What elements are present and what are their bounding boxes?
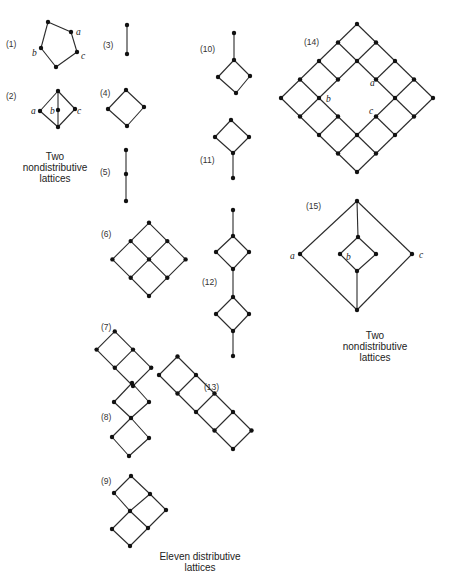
node-label-2-b: b <box>50 106 55 116</box>
lattice-edge <box>216 297 233 314</box>
lattice-edge <box>216 236 233 252</box>
label-lattice-12: (12) <box>202 277 217 287</box>
node-label-1-c: c <box>81 51 86 61</box>
lattice-node <box>128 544 132 548</box>
lattice-edge <box>357 201 358 237</box>
lattice-node <box>149 366 153 370</box>
lattice-node <box>212 428 216 432</box>
lattice-edge <box>357 61 376 80</box>
lattice-node <box>131 347 135 351</box>
caption-eleven-distributive: Eleven distributive lattices <box>145 551 255 573</box>
lattice-edge <box>236 76 250 93</box>
lattice-edge <box>149 241 167 259</box>
lattice-node <box>113 329 117 333</box>
lattice-node <box>231 329 235 333</box>
lattice-node <box>234 91 238 95</box>
lattice-node <box>431 96 435 100</box>
lattice-edge <box>338 24 357 43</box>
lattice-edge <box>376 117 395 136</box>
lattice-edge <box>319 117 338 136</box>
lattice-edge <box>319 61 338 80</box>
lattice-node <box>355 170 359 174</box>
lattice-node <box>231 267 235 271</box>
lattice-edge <box>150 494 166 510</box>
lattice-node <box>110 435 114 439</box>
lattice-edge <box>40 91 58 111</box>
lattice-edge <box>40 111 58 127</box>
label-lattice-14: (14) <box>304 37 319 47</box>
lattice-node <box>128 509 132 513</box>
lattice-node <box>165 276 169 280</box>
lattice-edge <box>131 476 150 494</box>
lattice-edge <box>112 259 130 277</box>
lattice-node <box>355 199 359 203</box>
lattice-figure: (1) (2) (3) (4) (5) (6) (7) (8) (9) (10)… <box>0 0 449 584</box>
lattice-edge <box>338 117 357 136</box>
lattice-edge <box>233 297 249 314</box>
lattice-edge <box>130 528 148 546</box>
lattice-edge <box>376 98 395 117</box>
caption-line: nondistributive <box>325 341 425 352</box>
node-label-14-c: c <box>369 106 374 116</box>
lattice-edge <box>108 90 126 109</box>
lattice-node <box>165 239 169 243</box>
lattice-node <box>130 381 134 385</box>
lattice-edge <box>300 80 319 99</box>
lattice-node <box>175 354 179 358</box>
lattice-node <box>216 75 220 79</box>
lattice-edge <box>414 80 433 99</box>
lattice-node <box>112 491 116 495</box>
lattice-node <box>113 366 117 370</box>
lattice-edge <box>218 77 236 93</box>
lattice-edge <box>127 107 144 126</box>
lattice-edge <box>131 223 149 241</box>
label-lattice-9: (9) <box>101 476 112 486</box>
lattice-edge <box>112 437 129 456</box>
lattice-node <box>231 208 235 212</box>
caption-two-nondistributive-left: Two nondistributive lattices <box>10 151 100 184</box>
lattice-node <box>194 373 198 377</box>
lattice-node <box>147 400 151 404</box>
lattice-node <box>127 454 131 458</box>
lattice-edge <box>414 98 433 117</box>
lattice-edge <box>300 98 319 117</box>
lattice-edge <box>357 43 376 62</box>
lattice-node <box>231 447 235 451</box>
lattice-node <box>213 135 217 139</box>
caption-line: Eleven distributive <box>145 551 255 562</box>
lattice-edge <box>115 350 133 368</box>
lattice-node <box>124 172 128 176</box>
lattice-node <box>175 391 179 395</box>
node-label-15-b: b <box>346 252 351 262</box>
lattice-node <box>336 151 340 155</box>
lattice-node <box>94 347 98 351</box>
lattice-edge <box>167 259 185 277</box>
lattice-edge <box>112 511 130 529</box>
lattice-node <box>231 234 235 238</box>
lattice-node <box>355 22 359 26</box>
lattice-edge <box>133 350 151 368</box>
lattice-node <box>393 96 397 100</box>
lattice-edge <box>357 254 376 271</box>
lattice-edge <box>358 237 376 254</box>
label-lattice-11: (11) <box>200 155 215 165</box>
lattice-node <box>355 133 359 137</box>
label-lattice-15: (15) <box>306 201 321 211</box>
label-lattice-13: (13) <box>204 382 219 392</box>
lattice-edge <box>357 201 412 254</box>
caption-line: lattices <box>325 352 425 363</box>
lattice-edge <box>58 109 75 127</box>
lattice-edge <box>133 368 151 386</box>
lattice-edge <box>233 314 249 331</box>
lattice-node <box>317 59 321 63</box>
lattice-edge <box>338 154 357 173</box>
lattice-edge <box>114 476 131 493</box>
lattice-node <box>46 20 50 24</box>
lattice-node <box>231 176 235 180</box>
lattice-node <box>298 77 302 81</box>
lattice-node <box>69 30 73 34</box>
lattice-node <box>355 308 359 312</box>
lattice-edge <box>131 241 149 259</box>
lattice-edge <box>159 375 178 394</box>
lattice-edge <box>281 80 300 99</box>
